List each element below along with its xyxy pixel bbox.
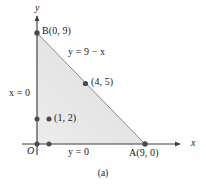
point-4-5-label: (4, 5) [91, 77, 113, 87]
x-zero-equation-label: x = 0 [9, 88, 30, 98]
plot-canvas [0, 0, 206, 185]
point-marker-4-5 [83, 81, 88, 86]
hypotenuse-equation-label: y = 9 − x [68, 47, 105, 57]
point-marker-1-0 [47, 142, 52, 147]
x-axis-label: x [191, 138, 196, 148]
point-marker-vertex-b [34, 30, 39, 35]
origin-label: O [27, 146, 34, 156]
vertex-b-label: B(0, 9) [42, 26, 71, 36]
point-marker-1-2 [47, 117, 52, 122]
point-marker-origin [35, 142, 40, 147]
vertex-a-label: A(9, 0) [129, 148, 159, 158]
y-axis-label: y [35, 3, 40, 13]
figure-caption: (a) [0, 168, 206, 178]
y-zero-equation-label: y = 0 [68, 147, 89, 157]
point-1-2-label: (1, 2) [54, 113, 76, 123]
point-marker-vertex-a [142, 141, 147, 146]
figure-container: y x O B(0, 9) A(9, 0) (4, 5) (1, 2) y = … [0, 0, 206, 185]
point-marker-0-2 [35, 117, 40, 122]
